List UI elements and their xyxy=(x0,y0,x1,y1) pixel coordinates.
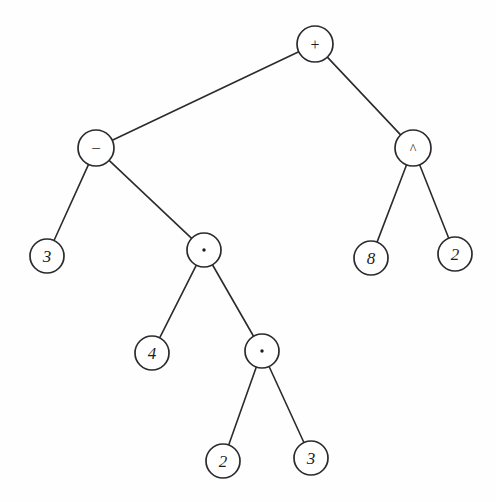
tree-node-operand[interactable]: 2 xyxy=(206,444,240,478)
tree-edge xyxy=(212,265,253,337)
edge-layer xyxy=(54,52,449,445)
node-label: 4 xyxy=(148,344,157,363)
tree-edge xyxy=(229,367,257,445)
tree-node-operator[interactable]: · xyxy=(245,334,279,368)
node-label: 2 xyxy=(451,245,460,264)
node-label: 8 xyxy=(367,249,376,268)
tree-edge xyxy=(327,57,400,135)
tree-edge xyxy=(109,160,192,238)
node-label: 2 xyxy=(219,452,228,471)
node-layer: +−^3·824·23 xyxy=(30,26,472,478)
tree-edge xyxy=(112,52,298,141)
tree-node-operator[interactable]: ^ xyxy=(395,130,431,166)
node-label: + xyxy=(310,36,319,53)
node-label: − xyxy=(91,139,101,158)
node-label: 3 xyxy=(306,449,316,468)
tree-node-operand[interactable]: 8 xyxy=(354,241,388,275)
tree-node-operand[interactable]: 4 xyxy=(135,336,169,370)
tree-edge xyxy=(420,165,449,238)
tree-edge xyxy=(377,165,407,242)
tree-diagram-canvas: +−^3·824·23 xyxy=(0,0,496,502)
tree-edge xyxy=(269,366,304,442)
expression-tree-figure: +−^3·824·23 xyxy=(0,0,496,502)
node-label: 3 xyxy=(42,247,52,266)
tree-node-operator[interactable]: + xyxy=(297,26,333,62)
tree-node-operand[interactable]: 2 xyxy=(438,237,472,271)
tree-node-operator[interactable]: · xyxy=(187,233,221,267)
node-label: ^ xyxy=(410,142,417,157)
multiplication-dot-icon xyxy=(202,248,205,251)
tree-node-operand[interactable]: 3 xyxy=(30,239,64,273)
tree-edge xyxy=(160,265,197,338)
tree-node-operator[interactable]: − xyxy=(78,130,114,166)
tree-node-operand[interactable]: 3 xyxy=(294,441,328,475)
tree-edge xyxy=(54,164,89,240)
multiplication-dot-icon xyxy=(260,349,263,352)
